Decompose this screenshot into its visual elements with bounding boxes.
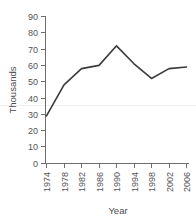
chart-canvas: 90 80 70 60 50 40 30 20 10 0 1974 1978 [0, 0, 196, 224]
x-tick-label: 1982 [77, 172, 87, 192]
y-tick-label: 0 [33, 159, 38, 169]
y-axis-ticks [41, 17, 46, 164]
y-tick-label: 70 [28, 45, 38, 55]
x-tick-label: 2006 [182, 172, 192, 192]
x-tick-label: 1994 [130, 172, 140, 192]
y-axis-tick-labels: 90 80 70 60 50 40 30 20 10 0 [28, 12, 38, 169]
y-tick-label: 20 [28, 126, 38, 136]
x-tick-label: 1978 [60, 172, 70, 192]
x-axis-ticks [47, 164, 187, 169]
x-axis-title: Year [108, 205, 127, 216]
y-tick-label: 40 [28, 94, 38, 104]
y-tick-label: 30 [28, 110, 38, 120]
y-tick-label: 90 [28, 12, 38, 22]
x-tick-label: 1998 [147, 172, 157, 192]
x-tick-label: 2002 [165, 172, 175, 192]
x-tick-label: 1990 [112, 172, 122, 192]
y-tick-label: 10 [28, 142, 38, 152]
y-tick-label: 50 [28, 77, 38, 87]
x-tick-label: 1974 [42, 172, 52, 192]
x-tick-label: 1986 [95, 172, 105, 192]
x-axis-tick-labels: 1974 1978 1982 1986 1990 1994 1998 2002 … [42, 172, 192, 192]
y-tick-label: 60 [28, 61, 38, 71]
line-chart: 90 80 70 60 50 40 30 20 10 0 1974 1978 [0, 0, 196, 224]
y-axis-title: Thousands [7, 66, 18, 113]
y-tick-label: 80 [28, 28, 38, 38]
